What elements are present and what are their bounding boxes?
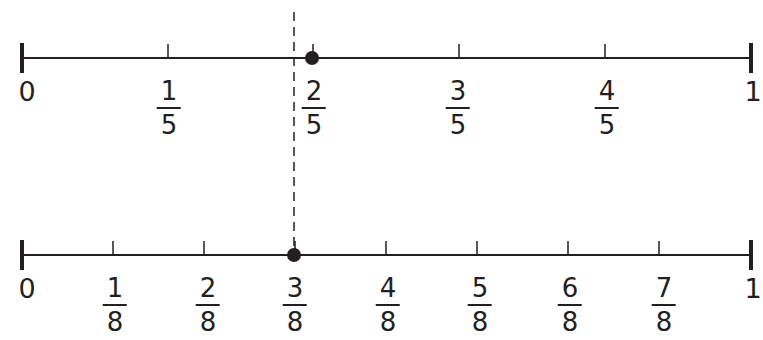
denominator: 8 (196, 309, 221, 335)
fraction-bar (446, 107, 470, 109)
label-1-8: 1 8 (103, 275, 128, 335)
numerator: 1 (103, 275, 128, 301)
fraction-bar (595, 107, 619, 109)
label-2-8: 2 8 (196, 275, 221, 335)
denominator: 8 (283, 309, 308, 335)
label-2-5: 2 5 (302, 78, 327, 138)
numerator: 4 (595, 78, 620, 104)
fraction-bar (652, 304, 676, 306)
denominator: 8 (468, 309, 493, 335)
label-0-bottom: 0 (18, 275, 35, 302)
label-3-8: 3 8 (283, 275, 308, 335)
label-4-5: 4 5 (595, 78, 620, 138)
fraction-bar (558, 304, 582, 306)
label-1-bottom: 1 (744, 275, 761, 302)
marked-point-2-5 (305, 51, 319, 65)
denominator: 5 (157, 112, 182, 138)
numerator: 1 (157, 78, 182, 104)
denominator: 8 (103, 309, 128, 335)
fraction-bar (468, 304, 492, 306)
denominator: 8 (652, 309, 677, 335)
fraction-bar (376, 304, 400, 306)
fraction-bar (283, 304, 307, 306)
numerator: 5 (468, 275, 493, 301)
marked-point-3-8 (287, 248, 301, 262)
numerator: 6 (558, 275, 583, 301)
denominator: 5 (595, 112, 620, 138)
numerator: 3 (283, 275, 308, 301)
fraction-bar (302, 107, 326, 109)
numerator: 3 (446, 78, 471, 104)
fraction-bar (196, 304, 220, 306)
label-3-5: 3 5 (446, 78, 471, 138)
numerator: 2 (196, 275, 221, 301)
denominator: 5 (446, 112, 471, 138)
number-line-eighths (22, 240, 751, 270)
label-6-8: 6 8 (558, 275, 583, 335)
label-0-top: 0 (18, 78, 35, 105)
label-5-8: 5 8 (468, 275, 493, 335)
fraction-bar (157, 107, 181, 109)
numerator: 4 (376, 275, 401, 301)
label-7-8: 7 8 (652, 275, 677, 335)
number-line-fifths (22, 43, 751, 73)
numerator: 7 (652, 275, 677, 301)
denominator: 5 (302, 112, 327, 138)
label-1-5: 1 5 (157, 78, 182, 138)
fraction-bar (103, 304, 127, 306)
denominator: 8 (376, 309, 401, 335)
label-4-8: 4 8 (376, 275, 401, 335)
label-1-top: 1 (744, 78, 761, 105)
numerator: 2 (302, 78, 327, 104)
denominator: 8 (558, 309, 583, 335)
